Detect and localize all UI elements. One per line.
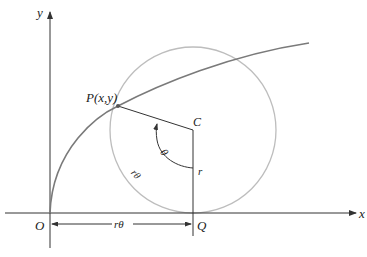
y-axis-label: y bbox=[35, 5, 43, 20]
base-length-label: rθ bbox=[114, 218, 124, 230]
origin-label: O bbox=[35, 218, 45, 233]
x-axis-label: x bbox=[358, 206, 365, 221]
segment-pc bbox=[118, 106, 193, 130]
point-p-label: P(x,y) bbox=[85, 90, 117, 105]
arc-length-label: rθ bbox=[129, 167, 143, 181]
cycloid-curve bbox=[50, 43, 309, 213]
radius-label: r bbox=[198, 165, 203, 177]
theta-arc bbox=[156, 124, 193, 168]
cycloid-diagram: y x O P(x,y) C Q θ rθ r rθ bbox=[0, 0, 367, 257]
point-q-label: Q bbox=[197, 218, 207, 233]
point-c-label: C bbox=[193, 115, 202, 129]
